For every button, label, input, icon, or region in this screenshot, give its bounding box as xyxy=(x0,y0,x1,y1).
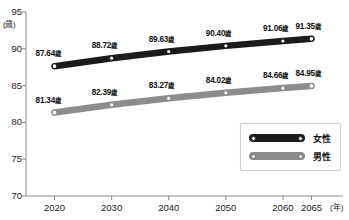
legend-item-male[interactable]: 男性 xyxy=(249,149,331,163)
data-point-value-label: 91.06歳 xyxy=(263,24,288,33)
value-number: 87.64 xyxy=(36,49,56,58)
data-point-marker xyxy=(309,36,314,41)
value-number: 89.63 xyxy=(149,35,169,44)
value-unit: 歳 xyxy=(225,77,231,84)
legend-label-male: 男性 xyxy=(313,150,331,163)
value-unit: 歳 xyxy=(111,89,117,96)
value-unit: 歳 xyxy=(55,50,61,57)
legend-swatch-female xyxy=(249,134,305,142)
x-tick-label: 2030 xyxy=(92,202,132,213)
chart-plot-area xyxy=(0,0,349,220)
data-point-marker xyxy=(110,57,113,60)
x-tick-label: 2050 xyxy=(206,202,246,213)
legend-swatch-male xyxy=(249,152,305,160)
legend-marker-right-icon xyxy=(298,154,303,159)
x-tick-label: 2040 xyxy=(149,202,189,213)
data-point-marker xyxy=(281,39,284,42)
y-tick-label: 90 xyxy=(0,43,22,54)
chart-legend: 女性 男性 xyxy=(240,123,341,171)
data-point-marker xyxy=(224,44,227,47)
data-point-marker xyxy=(52,64,57,69)
y-tick-label: 70 xyxy=(0,190,22,201)
y-tick-label: 95 xyxy=(0,6,22,17)
value-unit: 歳 xyxy=(282,72,288,79)
legend-marker-left-icon xyxy=(251,136,256,141)
legend-label-female: 女性 xyxy=(313,132,331,145)
data-point-value-label: 90.40歳 xyxy=(206,29,231,38)
value-number: 84.95 xyxy=(295,69,315,78)
data-point-value-label: 91.35歳 xyxy=(295,22,320,31)
y-axis-unit-label: (歳) xyxy=(3,18,15,29)
data-point-marker xyxy=(167,97,170,100)
value-unit: 歳 xyxy=(55,97,61,104)
value-unit: 歳 xyxy=(168,36,174,43)
data-point-marker xyxy=(281,87,284,90)
data-point-value-label: 84.66歳 xyxy=(263,71,288,80)
data-point-value-label: 84.02歳 xyxy=(206,76,231,85)
y-tick-label: 75 xyxy=(0,153,22,164)
y-tick-label: 80 xyxy=(0,116,22,127)
value-unit: 歳 xyxy=(168,82,174,89)
data-point-marker xyxy=(110,103,113,106)
value-number: 91.35 xyxy=(295,22,315,31)
data-point-marker xyxy=(52,110,57,115)
value-unit: 歳 xyxy=(225,30,231,37)
value-unit: 歳 xyxy=(282,25,288,32)
value-number: 82.39 xyxy=(92,88,112,97)
y-tick-label: 85 xyxy=(0,80,22,91)
value-number: 90.40 xyxy=(206,29,226,38)
data-point-value-label: 89.63歳 xyxy=(149,35,174,44)
data-point-value-label: 88.72歳 xyxy=(92,41,117,50)
value-number: 91.06 xyxy=(263,24,283,33)
legend-marker-right-icon xyxy=(298,136,303,141)
data-point-marker xyxy=(309,84,314,89)
value-number: 83.27 xyxy=(149,81,169,90)
value-number: 81.34 xyxy=(36,96,56,105)
value-unit: 歳 xyxy=(111,42,117,49)
data-point-value-label: 82.39歳 xyxy=(92,88,117,97)
x-tick-label: 2020 xyxy=(35,202,75,213)
x-axis-unit-label: (年) xyxy=(330,201,343,212)
x-tick-label: 2065 xyxy=(291,202,331,213)
value-number: 84.66 xyxy=(263,71,283,80)
value-unit: 歳 xyxy=(315,70,321,77)
legend-marker-left-icon xyxy=(251,154,256,159)
value-number: 88.72 xyxy=(92,41,112,50)
data-point-value-label: 83.27歳 xyxy=(149,81,174,90)
value-number: 84.02 xyxy=(206,76,226,85)
data-point-marker xyxy=(224,91,227,94)
life-expectancy-line-chart: (歳) (年) 707580859095 2020203020402050206… xyxy=(0,0,349,220)
value-unit: 歳 xyxy=(315,23,321,30)
legend-item-female[interactable]: 女性 xyxy=(249,131,331,145)
data-point-value-label: 84.95歳 xyxy=(295,69,320,78)
data-point-value-label: 81.34歳 xyxy=(36,96,61,105)
data-point-value-label: 87.64歳 xyxy=(36,49,61,58)
data-point-marker xyxy=(167,50,170,53)
